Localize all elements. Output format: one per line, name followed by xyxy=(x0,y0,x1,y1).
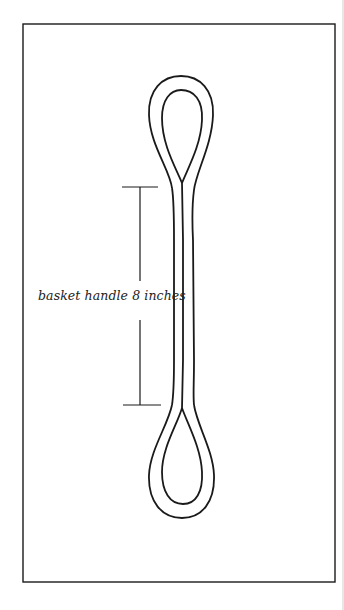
frame-border xyxy=(23,24,335,582)
handle-bottom-loop-outer xyxy=(149,405,214,518)
basket-handle-diagram xyxy=(0,0,344,610)
handle-bottom-loop-inner xyxy=(162,408,202,504)
handle-shaft-right xyxy=(192,190,194,405)
handle-top-loop-outer xyxy=(149,76,213,190)
dimension-label: basket handle 8 inches xyxy=(38,288,186,303)
handle-top-loop-inner xyxy=(162,90,202,183)
